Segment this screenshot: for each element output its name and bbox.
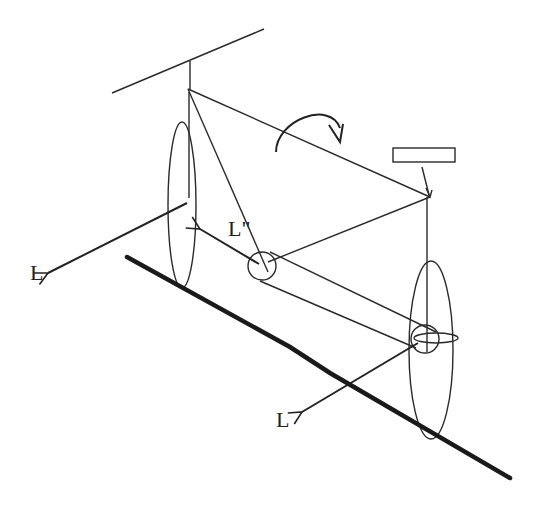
rotation-arrow bbox=[276, 115, 340, 152]
rotation-arrowhead-icon bbox=[329, 124, 343, 142]
bicycle-angular-momentum-diagram: L L" L bbox=[0, 0, 541, 524]
chain-lower bbox=[260, 281, 416, 348]
crank-circle bbox=[248, 252, 276, 280]
front-wheel-L-label: L bbox=[30, 260, 43, 285]
seat-to-crank-tube bbox=[268, 197, 430, 262]
handlebar-rectangle bbox=[393, 148, 455, 162]
top-tube bbox=[188, 89, 430, 197]
rear-wheel-L-vector bbox=[302, 343, 418, 412]
handlebar-Lpp-label: L" bbox=[228, 216, 250, 241]
rear-hub-ellipse bbox=[414, 333, 458, 343]
chain-upper bbox=[270, 252, 436, 332]
front-wheel-L-vector bbox=[48, 203, 187, 273]
rear-wheel-L-label: L bbox=[276, 407, 289, 432]
ceiling-line bbox=[112, 29, 264, 93]
